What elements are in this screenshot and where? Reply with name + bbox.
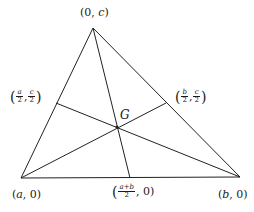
paren-open: ( <box>10 89 15 105</box>
centroid-label: G <box>120 109 130 121</box>
right-vertex-label: (b, 0) <box>218 189 248 200</box>
apex-label-open: (0, <box>80 6 98 19</box>
apex-label: (0, c) <box>80 7 109 18</box>
centroid-point <box>116 126 119 129</box>
fraction-a-over-2: a2 <box>16 89 22 104</box>
fraction-c-over-2: c2 <box>193 89 199 104</box>
median-from-apex <box>93 28 130 178</box>
median-from-right <box>56 103 240 177</box>
fraction-a-plus-b-over-2: a+b2 <box>118 184 135 199</box>
median-from-left <box>21 103 166 178</box>
paren-open: ( <box>112 184 117 200</box>
fraction-c-over-2: c2 <box>28 89 34 104</box>
paren-close: ) <box>201 89 206 105</box>
left-midpoint-label: (a2,c2) <box>10 89 41 104</box>
triangle-outline <box>21 28 240 178</box>
base-midpoint-label: (a+b2, 0) <box>112 184 154 199</box>
right-midpoint-label: (b2,c2) <box>175 89 206 104</box>
left-vertex-label: (a, 0) <box>12 189 41 200</box>
fraction-b-over-2: b2 <box>181 89 187 104</box>
paren-close: ) <box>36 89 41 105</box>
apex-label-close: ) <box>104 6 108 19</box>
triangle-figure <box>0 0 254 212</box>
paren-open: ( <box>175 89 180 105</box>
